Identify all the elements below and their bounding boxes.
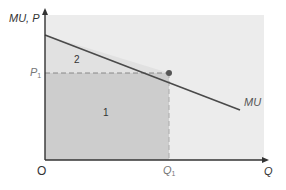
p1-label-sub: 1 xyxy=(37,72,41,79)
region-2-label: 2 xyxy=(74,55,80,65)
region-1-label: 1 xyxy=(103,108,109,118)
chart-canvas xyxy=(0,0,286,190)
x-axis-label: Q xyxy=(264,166,273,177)
y-axis-label: MU, P xyxy=(9,13,40,24)
mu-curve-label: MU xyxy=(244,97,261,108)
x-axis-arrow-icon xyxy=(262,157,269,163)
q1-label-sub: 1 xyxy=(172,170,176,177)
y-axis-arrow-icon xyxy=(42,8,48,15)
equilibrium-point xyxy=(166,70,172,76)
q1-label: Q1 xyxy=(163,165,175,177)
q1-label-main: Q xyxy=(163,164,172,176)
p1-label: P1 xyxy=(30,67,41,79)
origin-label: O xyxy=(37,165,46,177)
